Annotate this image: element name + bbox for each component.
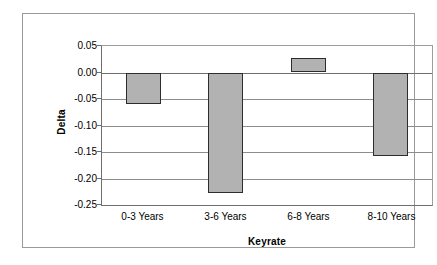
y-axis-tick-label: -0.15	[53, 146, 97, 157]
bar[interactable]	[373, 73, 408, 157]
x-axis-tick-label: 3-6 Years	[184, 211, 267, 227]
y-axis-tick-label-group: 0.050.00-0.05-0.10-0.15-0.20-0.25	[23, 14, 97, 265]
bar-slot	[185, 46, 268, 205]
bar-slot	[350, 46, 433, 205]
y-axis-tick-label: 0.00	[53, 66, 97, 77]
x-axis-tick-label: 6-8 Years	[267, 211, 350, 227]
x-axis-tick-label-group: 0-3 Years3-6 Years6-8 Years8-10 Years	[101, 211, 433, 227]
bar[interactable]	[126, 73, 161, 105]
bar[interactable]	[208, 73, 243, 194]
y-axis-tick-label: -0.20	[53, 172, 97, 183]
y-axis-tick-label: -0.25	[53, 199, 97, 210]
bar-slot	[102, 46, 185, 205]
y-axis-tick-label: -0.10	[53, 119, 97, 130]
bar-slot	[267, 46, 350, 205]
chart-frame: Delta 0.050.00-0.05-0.10-0.15-0.20-0.25 …	[22, 13, 415, 248]
plot-area	[101, 45, 433, 206]
x-axis-tick-label: 0-3 Years	[101, 211, 184, 227]
x-axis-title: Keyrate	[101, 236, 433, 247]
y-axis-tick-label: 0.05	[53, 40, 97, 51]
bar[interactable]	[291, 58, 326, 72]
x-axis-tick-label: 8-10 Years	[350, 211, 433, 227]
y-axis-tick-label: -0.05	[53, 93, 97, 104]
